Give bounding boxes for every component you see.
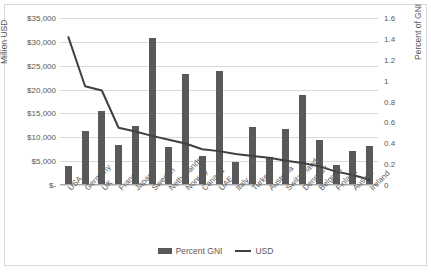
y-axis-left-title: Million USD bbox=[0, 20, 9, 64]
y-axis-right-tick-label: 0.6 bbox=[384, 118, 395, 127]
y-axis-right-ticks: 00.20.40.60.811.21.41.6 bbox=[384, 18, 408, 185]
y-axis-right-title: Percent of GNI bbox=[413, 4, 423, 60]
y-axis-left-tick-label: $25,000 bbox=[27, 61, 56, 70]
plot-area bbox=[60, 18, 378, 185]
y-axis-left-tick-label: $35,000 bbox=[27, 14, 56, 23]
legend-item-percent-gni[interactable]: Percent GNI bbox=[158, 246, 223, 256]
y-axis-right-tick-label: 0.4 bbox=[384, 139, 395, 148]
chart-legend: Percent GNI USD bbox=[0, 246, 431, 256]
y-axis-right-tick-label: 1.6 bbox=[384, 14, 395, 23]
y-axis-left-tick-label: $20,000 bbox=[27, 85, 56, 94]
legend-item-usd[interactable]: USD bbox=[235, 246, 273, 256]
y-axis-right-tick-label: 1.4 bbox=[384, 34, 395, 43]
x-axis-ticks: USAGermanyUKFranceJapanSwedenNetherlands… bbox=[60, 186, 378, 244]
legend-label-percent-gni: Percent GNI bbox=[176, 246, 223, 256]
legend-label-usd: USD bbox=[255, 246, 273, 256]
line-series-usd bbox=[60, 18, 378, 185]
y-axis-right-tick-label: 1.2 bbox=[384, 55, 395, 64]
y-axis-left-tick-label: $5,000 bbox=[32, 157, 56, 166]
y-axis-right-tick-label: 0.2 bbox=[384, 160, 395, 169]
chart-container: Million USD $-$5,000$10,000$15,000$20,00… bbox=[0, 0, 431, 274]
y-axis-left-tick-label: $15,000 bbox=[27, 109, 56, 118]
bar-swatch-icon bbox=[158, 248, 172, 254]
y-axis-left-tick-label: $10,000 bbox=[27, 133, 56, 142]
y-axis-left-tick-label: $30,000 bbox=[27, 37, 56, 46]
y-axis-left-tick-label: $- bbox=[49, 181, 56, 190]
y-axis-right-tick-label: 0.8 bbox=[384, 97, 395, 106]
y-axis-right-tick-label: 1 bbox=[384, 76, 388, 85]
y-axis-left-ticks: $-$5,000$10,000$15,000$20,000$25,000$30,… bbox=[14, 18, 58, 185]
line-swatch-icon bbox=[235, 250, 251, 252]
